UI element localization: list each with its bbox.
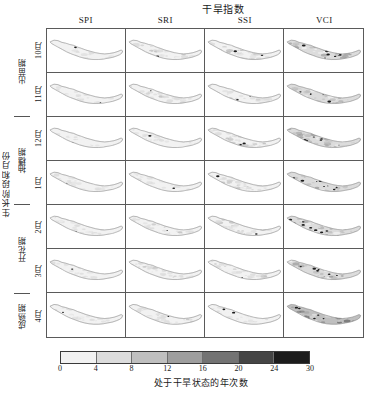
stage-group-chousuiqi: 抽穗期 — [14, 117, 30, 206]
month-row-label: 2月 — [30, 205, 46, 249]
map-panel — [47, 205, 126, 249]
map-panel — [126, 73, 205, 117]
stage-label-kaihuaqi: 开花期 — [17, 237, 28, 262]
map-panel — [205, 29, 284, 73]
month-label-mar: 3月 — [33, 265, 44, 278]
map-panel — [126, 117, 205, 161]
colorbar-caption-text: 处于干旱状态的年次数 — [154, 376, 248, 389]
stage-label-chengshuqi: 成熟期 — [17, 304, 28, 329]
month-label-nov: 11月 — [33, 86, 44, 103]
map-panel — [205, 249, 284, 293]
month-label-dec: 12月 — [33, 130, 44, 147]
map-panel — [47, 73, 126, 117]
map-panel — [205, 205, 284, 249]
month-row-label: 12月 — [30, 117, 46, 161]
map-panel — [284, 249, 363, 293]
map-panel — [205, 293, 284, 337]
colorbar-swatch — [97, 352, 133, 363]
map-panel — [47, 293, 126, 337]
map-panel — [47, 161, 126, 205]
month-row-label: 11月 — [30, 72, 46, 116]
colorbar-tick: 8 — [129, 364, 133, 373]
column-header-vci: VCI — [285, 15, 365, 28]
stage-group-chumiaoqi: 出苗期 — [14, 28, 30, 117]
colorbar-tick: 24 — [270, 364, 278, 373]
map-panel — [126, 161, 205, 205]
month-label-jan: 1月 — [33, 177, 44, 190]
figure-title: 干旱指数 — [0, 1, 366, 16]
map-panel-grid — [46, 28, 364, 338]
column-header-ssi: SSI — [205, 15, 285, 28]
colorbar-tick: 0 — [58, 364, 62, 373]
map-panel — [284, 161, 363, 205]
stage-label-chumiaoqi: 出苗期 — [17, 59, 28, 84]
map-panel — [205, 73, 284, 117]
colorbar-swatch — [239, 352, 275, 363]
month-row-label: 3月 — [30, 249, 46, 293]
month-label-oct: 10月 — [33, 42, 44, 59]
map-panel — [284, 29, 363, 73]
map-panel — [284, 73, 363, 117]
stage-axis-label: 生长阶段和月份 — [0, 28, 14, 338]
month-label-feb: 2月 — [33, 221, 44, 234]
month-row-label: 1月 — [30, 161, 46, 205]
stage-label-chousuiqi: 抽穗期 — [17, 148, 28, 173]
growth-stage-column: 出苗期 抽穗期 开花期 成熟期 — [14, 28, 30, 338]
column-header-sri: SRI — [126, 15, 206, 28]
colorbar-tick: 16 — [199, 364, 207, 373]
month-row-label: 4月 — [30, 294, 46, 338]
colorbar-tick: 20 — [235, 364, 243, 373]
stage-group-chengshuqi: 成熟期 — [14, 294, 30, 338]
stage-axis-label-text: 生长阶段和月份 — [1, 150, 13, 217]
map-panel — [205, 161, 284, 205]
stage-group-kaihuaqi: 开花期 — [14, 205, 30, 294]
map-panel — [284, 117, 363, 161]
colorbar-swatch — [274, 352, 309, 363]
figure-title-text: 干旱指数 — [202, 1, 244, 16]
month-label-apr: 4月 — [33, 310, 44, 323]
colorbar-gradient — [60, 351, 310, 364]
colorbar-swatch — [132, 352, 168, 363]
month-column: 10月 11月 12月 1月 2月 3月 4月 — [30, 28, 46, 338]
column-header-spi: SPI — [46, 15, 126, 28]
map-panel — [47, 249, 126, 293]
colorbar-tick: 4 — [94, 364, 98, 373]
map-panel — [126, 205, 205, 249]
colorbar-tick: 30 — [306, 364, 314, 373]
column-header-row: SPI SRI SSI VCI — [46, 15, 364, 28]
map-panel — [47, 117, 126, 161]
map-panel — [47, 29, 126, 73]
colorbar-swatch — [203, 352, 239, 363]
map-panel — [126, 293, 205, 337]
colorbar-tick: 12 — [163, 364, 171, 373]
month-row-label: 10月 — [30, 28, 46, 72]
map-panel — [284, 205, 363, 249]
colorbar-caption: 处于干旱状态的年次数 — [0, 376, 366, 389]
map-panel — [284, 293, 363, 337]
map-panel — [126, 249, 205, 293]
map-panel — [205, 117, 284, 161]
colorbar-tick-labels: 0481216202430 — [60, 364, 310, 376]
colorbar-swatch — [61, 352, 97, 363]
colorbar — [60, 351, 310, 364]
colorbar-swatch — [168, 352, 204, 363]
map-panel — [126, 29, 205, 73]
